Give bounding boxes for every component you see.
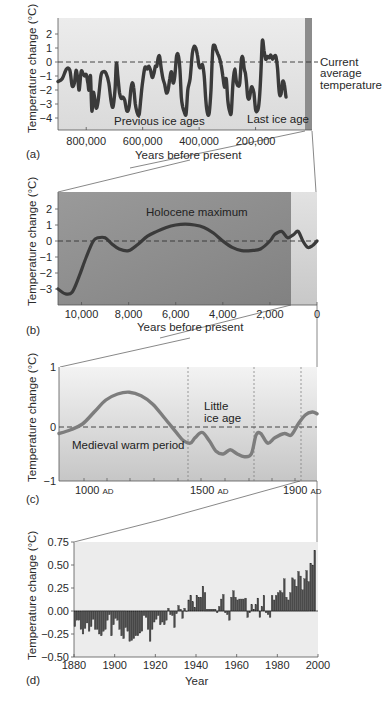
year-bar	[257, 598, 259, 611]
year-bar	[247, 611, 249, 617]
panel-c-letter: (c)	[26, 493, 40, 505]
panel-b-xtick: 6,000	[162, 308, 190, 320]
year-bar	[294, 580, 296, 611]
panel-a-xlabel: Years before present	[135, 149, 242, 161]
year-bar	[263, 595, 265, 611]
year-bar	[163, 611, 165, 625]
year-bar	[283, 579, 285, 611]
year-bar	[182, 611, 184, 618]
year-bar	[147, 611, 149, 629]
year-bar	[251, 605, 253, 611]
year-bar	[298, 571, 300, 611]
year-bar	[145, 611, 147, 617]
year-bar	[123, 611, 125, 639]
year-bar	[82, 611, 84, 634]
medieval-warm-period-label: Medieval warm period	[72, 439, 185, 451]
year-bar	[218, 606, 220, 611]
year-bar	[267, 611, 269, 615]
little-ice-age-label-2: ice age	[204, 412, 241, 424]
panel-d-xlabel: Year	[185, 675, 208, 687]
year-bar	[121, 611, 123, 636]
year-bar	[290, 593, 292, 611]
year-bar	[275, 595, 277, 611]
year-bar	[277, 593, 279, 611]
current-average-label-3: temperature	[320, 79, 382, 91]
panel-d-ytick: 0.25	[48, 582, 69, 594]
year-bar	[151, 611, 153, 629]
year-bar	[113, 611, 115, 625]
year-bar	[131, 611, 133, 640]
panel-d-xtick: 1920	[143, 659, 167, 671]
year-bar	[88, 611, 90, 631]
year-bar	[92, 611, 94, 619]
panel-d-xtick: 1900	[102, 659, 126, 671]
panel-d-ylabel: Temperature change (°C)	[26, 531, 38, 660]
year-bar	[222, 594, 224, 611]
panel-d-xtick: 2000	[306, 659, 330, 671]
year-bar	[220, 599, 222, 611]
panel-b-recent-band	[291, 192, 317, 305]
year-bar	[117, 611, 119, 620]
year-bar	[172, 611, 174, 616]
year-bar	[310, 563, 312, 611]
panel-c-ylabel: Temperature change (°C)	[26, 353, 38, 482]
year-bar	[135, 611, 137, 636]
year-bar	[155, 611, 157, 619]
panel-a-chart: 210−1−2−3−4800,000600,000400,000200,000 …	[26, 4, 382, 161]
year-bar	[235, 597, 237, 611]
panel-d-xtick: 1880	[62, 659, 86, 671]
year-bar	[149, 611, 151, 641]
panel-d-chart: 0.750.500.250.00−0.25−0.5018801900192019…	[26, 531, 330, 687]
year-bar	[159, 611, 161, 625]
panel-b-ytick: 0	[46, 235, 52, 247]
year-bar	[129, 611, 131, 641]
year-bar	[273, 600, 275, 611]
year-bar	[96, 611, 98, 629]
panel-b-xtick: 0	[314, 308, 320, 320]
panel-a-ytick: −3	[39, 98, 52, 110]
panel-a-letter: (a)	[26, 148, 40, 160]
panel-a-xtick: 400,000	[179, 135, 219, 147]
year-bar	[204, 593, 206, 611]
year-bar	[288, 600, 290, 611]
year-bar	[153, 611, 155, 622]
panel-b-xlabel: Years before present	[137, 321, 244, 333]
panel-c-ytick: −1	[43, 475, 56, 487]
panel-a-ylabel: Temperature change (°C)	[26, 4, 38, 133]
year-bar	[133, 611, 135, 639]
year-bar	[157, 611, 159, 616]
panel-b-ytick: 1	[46, 219, 52, 231]
year-bar	[279, 591, 281, 611]
year-bar	[241, 599, 243, 611]
panel-d-xtick: 1960	[224, 659, 248, 671]
year-bar	[292, 578, 294, 611]
panel-b-ytick: 2	[46, 203, 52, 215]
year-bar	[239, 599, 241, 611]
previous-ice-ages-label: Previous ice ages	[114, 115, 205, 127]
year-bar	[178, 605, 180, 611]
panel-a-ytick: 0	[46, 56, 52, 68]
year-bar	[184, 608, 186, 611]
year-bar	[115, 611, 117, 618]
year-bar	[198, 597, 200, 611]
year-bar	[176, 611, 178, 614]
year-bar	[166, 611, 168, 620]
year-bar	[107, 611, 109, 620]
year-bar	[312, 565, 314, 611]
panel-b-ytick: −1	[39, 251, 52, 263]
year-bar	[125, 611, 127, 628]
panel-b-chart: 210−1−2−310,0008,0006,0004,0002,0000 Hol…	[26, 177, 320, 336]
panel-d-letter: (d)	[26, 674, 40, 686]
year-bar	[231, 597, 233, 611]
year-bar	[259, 611, 261, 617]
panel-b-ytick: −3	[39, 283, 52, 295]
panel-b-xtick: 10,000	[65, 308, 99, 320]
panel-d-xtick: 1940	[184, 659, 208, 671]
year-bar	[188, 600, 190, 611]
year-bar	[271, 595, 273, 611]
year-bar	[174, 611, 176, 628]
year-bar	[78, 611, 80, 620]
year-bar	[143, 611, 145, 616]
holocene-maximum-label: Holocene maximum	[146, 206, 248, 218]
year-bar	[105, 611, 107, 629]
